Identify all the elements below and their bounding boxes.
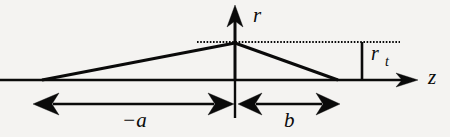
r-axis-label: r: [253, 3, 262, 27]
rt-label-base: r: [371, 42, 379, 64]
rt-label-subscript: t: [385, 54, 390, 69]
z-axis-label: z: [427, 65, 436, 89]
profile-left-slope: [42, 43, 235, 80]
dimension-b-label: b: [284, 108, 295, 132]
profile-right-slope: [235, 43, 338, 80]
dimension-minus-a-label: −a: [122, 108, 147, 132]
figure-container: zrrt−ab: [0, 0, 450, 137]
diagram-canvas: zrrt−ab: [0, 0, 450, 137]
